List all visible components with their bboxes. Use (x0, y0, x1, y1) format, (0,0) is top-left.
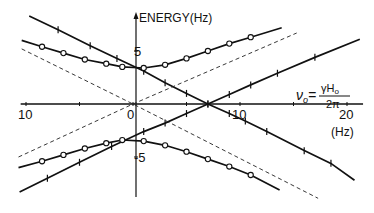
circle-marker-icon (120, 137, 125, 142)
dashed-asymptote-line (22, 49, 318, 198)
y-axis-label: ENERGY(Hz) (139, 11, 212, 25)
series-line (19, 140, 280, 190)
y-axis-arrow-icon (134, 12, 139, 19)
circle-marker-icon (82, 57, 87, 62)
series-upper-hyperbola (22, 28, 282, 71)
circle-marker-icon (248, 35, 253, 40)
y-tick-label: -5 (134, 150, 146, 165)
circle-marker-icon (39, 159, 44, 164)
circle-marker-icon (141, 139, 146, 144)
circle-marker-icon (141, 65, 146, 70)
energy-level-chart: 10010205-5 ENERGY(Hz) (Hz) νo= γHo 2π (0, 0, 374, 213)
y-tick-label: 5 (134, 44, 141, 59)
series-lower-increasing (20, 39, 360, 192)
circle-marker-icon (104, 141, 109, 146)
series-line (22, 28, 282, 68)
formula-lhs: νo= (296, 87, 316, 105)
x-tick-label: 0 (127, 107, 134, 122)
circle-marker-icon (205, 48, 210, 53)
series-line (20, 39, 360, 192)
x-tick-label: 20 (339, 107, 353, 122)
x-tick-label: 10 (18, 107, 32, 122)
formula-denominator: 2π (326, 98, 340, 110)
series-asymptote-negative-slope (22, 49, 318, 198)
circle-marker-icon (61, 152, 66, 157)
circle-marker-icon (227, 164, 232, 169)
circle-marker-icon (163, 62, 168, 67)
circle-marker-icon (184, 149, 189, 154)
circle-marker-icon (227, 41, 232, 46)
circle-marker-icon (248, 172, 253, 177)
formula-numerator: γHo (321, 82, 339, 96)
circle-marker-icon (104, 61, 109, 66)
circle-marker-icon (120, 64, 125, 69)
circle-marker-icon (163, 143, 168, 148)
circle-marker-icon (184, 56, 189, 61)
axes: 10010205-5 (18, 12, 363, 197)
circle-marker-icon (82, 146, 87, 151)
series-layer (19, 16, 360, 198)
circle-marker-icon (205, 157, 210, 162)
series-lower-hyperbola (19, 137, 280, 189)
x-axis-label: (Hz) (331, 125, 354, 139)
circle-marker-icon (61, 51, 66, 56)
formula-annotation: νo= γHo 2π (296, 82, 350, 110)
circle-marker-icon (39, 44, 44, 49)
